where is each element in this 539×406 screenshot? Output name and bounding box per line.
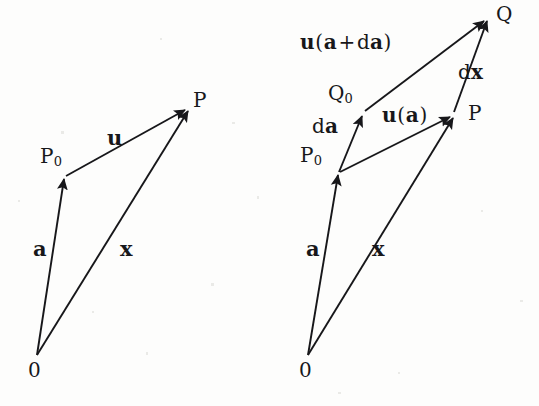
point-label-P-left: P <box>193 90 207 110</box>
vector-a-right <box>308 175 338 355</box>
point-label-origin-left: 0 <box>28 360 41 380</box>
vector-label-u-of-a: u(a) <box>382 105 428 125</box>
vector-label-x-right: x <box>372 238 385 259</box>
vector-label-da: da <box>312 116 338 136</box>
vector-label-a-left: a <box>33 238 47 259</box>
vector-label-x-left: x <box>120 238 133 259</box>
point-label-P0-right: P0 <box>300 145 322 167</box>
vector-label-u-left: u <box>107 127 122 148</box>
vector-label-a-right: a <box>306 238 320 259</box>
point-label-P-right: P <box>468 103 482 123</box>
vector-a-left <box>37 179 64 355</box>
vector-label-u-of-a-plus-da: u(a+da) <box>300 32 392 52</box>
point-label-origin-right: 0 <box>299 360 312 380</box>
vector-label-dx: dx <box>458 62 483 82</box>
point-label-Q-right: Q <box>496 4 513 24</box>
point-label-P0-left: P0 <box>40 146 62 168</box>
figure-canvas: P0 P 0 u a x Q Q0 P0 P 0 u(a+da) dx u(a)… <box>0 0 539 406</box>
point-label-Q0-right: Q0 <box>328 83 353 105</box>
